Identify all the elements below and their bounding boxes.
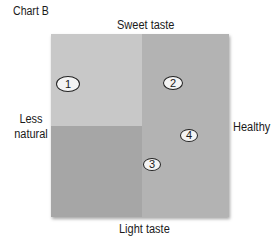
axis-label-bottom: Light taste [119,222,170,237]
marker-1: 1 [56,76,80,92]
axis-label-right: Healthy [233,120,270,135]
axis-label-left: Lessnatural [13,112,50,142]
axis-label-top: Sweet taste [117,18,174,33]
quadrant-top-right [142,34,229,126]
marker-2: 2 [163,76,183,90]
quadrant-bottom-left [51,126,142,217]
quadrant-grid [51,34,229,217]
marker-3: 3 [143,158,161,171]
marker-4: 4 [180,129,198,142]
chart-title: Chart B [13,4,49,18]
